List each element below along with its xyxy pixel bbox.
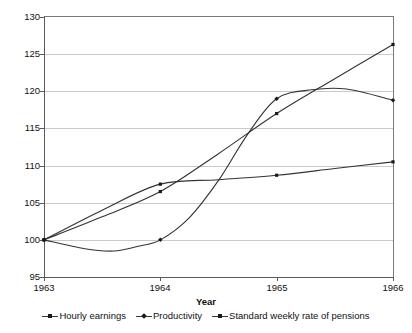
- legend-label: Standard weekly rate of pensions: [229, 311, 369, 321]
- legend-marker-icon: [212, 312, 228, 320]
- data-point-marker: [275, 112, 278, 115]
- series-line: [44, 44, 393, 239]
- series-line: [44, 162, 393, 240]
- series-hourly-earnings: [42, 43, 394, 242]
- series-line: [44, 88, 393, 251]
- data-point-marker: [275, 174, 278, 177]
- series-layer: [0, 0, 412, 333]
- series-productivity: [42, 88, 396, 251]
- legend-item-standard-weekly-rate-of-pensions[interactable]: Standard weekly rate of pensions: [212, 311, 369, 321]
- data-point-marker: [391, 43, 394, 46]
- data-point-marker: [159, 183, 162, 186]
- legend-label: Hourly earnings: [59, 311, 126, 321]
- legend-label: Productivity: [153, 311, 202, 321]
- chart-container: 95100105110115120125130 1963196419651966…: [0, 0, 412, 333]
- data-point-marker: [42, 238, 45, 241]
- series-standard-weekly-rate-of-pensions: [42, 160, 394, 241]
- legend-marker-icon: [136, 312, 152, 320]
- chart-legend: Hourly earnings Productivity Standard we…: [0, 311, 412, 321]
- data-point-marker: [391, 160, 394, 163]
- data-point-marker: [159, 190, 162, 193]
- legend-marker-icon: [42, 312, 58, 320]
- legend-item-hourly-earnings[interactable]: Hourly earnings: [42, 311, 126, 321]
- data-point-marker: [158, 238, 163, 243]
- data-point-marker: [391, 98, 396, 103]
- legend-item-productivity[interactable]: Productivity: [136, 311, 202, 321]
- x-axis-title: Year: [0, 296, 412, 307]
